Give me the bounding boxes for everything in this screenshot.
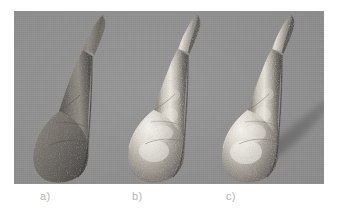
caption-label-a: a) — [40, 190, 50, 202]
caption-row: a) b) c) — [14, 186, 324, 212]
rendering-c — [204, 11, 324, 184]
object-c-geometry — [222, 14, 294, 183]
object-a-geometry — [33, 15, 105, 183]
caption-label-b: b) — [132, 190, 142, 202]
figure-root: a) b) c) — [0, 0, 338, 218]
caption-label-c: c) — [226, 190, 236, 202]
object-b-geometry — [128, 14, 200, 183]
render-cell-b — [110, 11, 213, 184]
render-cell-c — [204, 11, 307, 184]
render-panel — [14, 11, 324, 184]
render-cell-a — [14, 11, 117, 184]
